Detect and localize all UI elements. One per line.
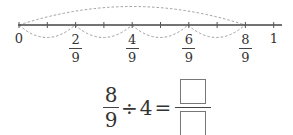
- answer-numerator-box[interactable]: [180, 79, 206, 104]
- label-2-9: 29: [66, 33, 86, 64]
- label-zero: 0: [9, 32, 29, 45]
- label-8-9: 89: [235, 33, 255, 64]
- equation: 8 9 ÷ 4 =: [103, 79, 211, 135]
- answer-denominator-box[interactable]: [180, 111, 206, 135]
- divide-sign: ÷: [121, 96, 138, 120]
- label-one: 1: [264, 32, 284, 45]
- equals-sign: =: [155, 96, 172, 120]
- equation-fraction: 8 9: [103, 85, 119, 130]
- label-6-9: 69: [179, 33, 199, 64]
- divisor: 4: [140, 96, 153, 120]
- label-4-9: 49: [122, 33, 142, 64]
- answer-fraction: [175, 79, 211, 135]
